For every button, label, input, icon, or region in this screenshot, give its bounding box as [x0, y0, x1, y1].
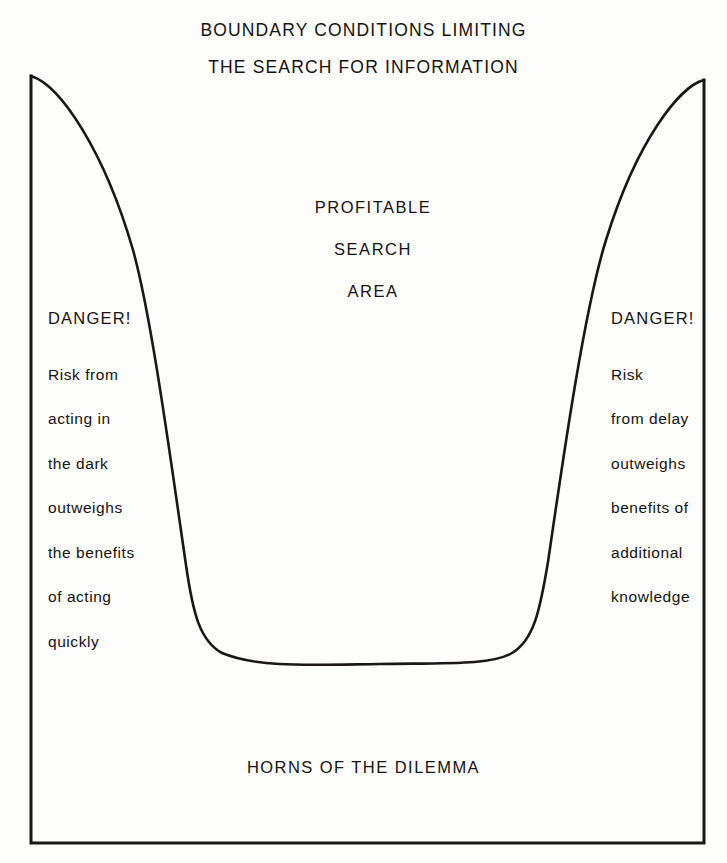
left-danger-line: acting in [48, 411, 135, 427]
right-danger-line: benefits of [611, 500, 695, 516]
left-danger-line: Risk from [48, 367, 135, 383]
right-danger-line: knowledge [611, 589, 695, 605]
left-danger-heading: DANGER! [48, 310, 135, 327]
right-danger-line: outweighs [611, 456, 695, 472]
left-danger-line: the dark [48, 456, 135, 472]
right-danger-line: from delay [611, 411, 695, 427]
left-danger-line: outweighs [48, 500, 135, 516]
figure-title-line-2: THE SEARCH FOR INFORMATION [0, 59, 727, 77]
right-danger-line: additional [611, 545, 695, 561]
profitable-search-area-line-1: PROFITABLE [243, 199, 503, 216]
left-danger-region: DANGER! Risk from acting in the dark out… [48, 310, 135, 649]
left-danger-line: the benefits [48, 545, 135, 561]
profitable-search-area-line-2: SEARCH [243, 241, 503, 258]
figure-boundary-conditions: BOUNDARY CONDITIONS LIMITING THE SEARCH … [0, 0, 727, 863]
right-danger-heading: DANGER! [611, 310, 695, 327]
left-danger-line: quickly [48, 634, 135, 650]
axis-caption: HORNS OF THE DILEMMA [0, 759, 727, 776]
right-danger-line: Risk [611, 367, 695, 383]
left-danger-line: of acting [48, 589, 135, 605]
right-danger-region: DANGER! Risk from delay outweighs benefi… [611, 310, 695, 605]
figure-title-line-1: BOUNDARY CONDITIONS LIMITING [0, 22, 727, 40]
profitable-search-area-line-3: AREA [243, 283, 503, 300]
